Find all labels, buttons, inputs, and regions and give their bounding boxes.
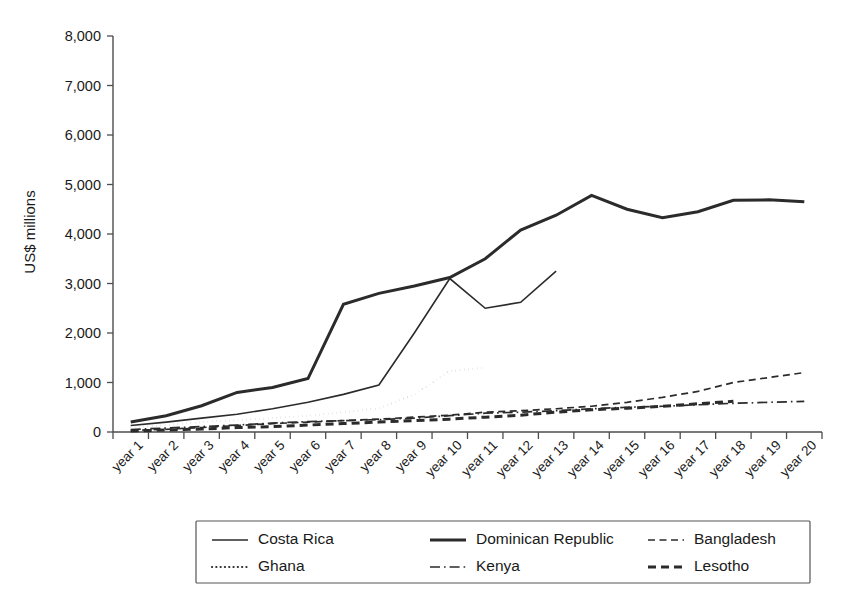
x-tick-label: year 14 — [564, 437, 607, 480]
x-tick-label: year 20 — [777, 438, 819, 480]
y-tick-label: 7,000 — [65, 78, 101, 94]
x-tick-label: year 18 — [706, 438, 748, 480]
x-tick-label: year 15 — [600, 438, 642, 480]
y-axis-title-text: US$ millions — [21, 190, 38, 273]
chart-figure: US$ millions 01,0002,0003,0004,0005,0006… — [0, 0, 853, 607]
caption-ghost-line — [6, 598, 846, 607]
x-tick-label: year 17 — [671, 438, 713, 480]
y-tick-label: 6,000 — [65, 127, 101, 143]
chart-series-group — [131, 195, 805, 431]
series-line-dominican-republic — [131, 195, 805, 422]
legend-label-bangladesh: Bangladesh — [694, 530, 776, 547]
line-chart: US$ millions 01,0002,0003,0004,0005,0006… — [0, 0, 853, 607]
x-tick-label: year 6 — [286, 438, 323, 475]
x-tick-label: year 19 — [741, 438, 783, 480]
x-tick-label: year 3 — [180, 438, 217, 475]
legend-label-kenya: Kenya — [476, 557, 520, 574]
x-tick-label: year 10 — [422, 438, 464, 480]
legend-entries: Costa RicaDominican RepublicBangladeshGh… — [212, 530, 776, 574]
y-tick-label: 2,000 — [65, 325, 101, 341]
y-tick-label: 3,000 — [65, 276, 101, 292]
x-tick-label: year 2 — [144, 438, 181, 475]
series-line-bangladesh — [131, 373, 805, 431]
y-tick-label: 8,000 — [65, 28, 101, 44]
x-tick-label: year 5 — [251, 438, 288, 475]
y-tick-label: 0 — [93, 424, 101, 440]
chart-legend: Costa RicaDominican RepublicBangladeshGh… — [196, 521, 810, 583]
x-tick-label: year 12 — [493, 438, 535, 480]
x-axis-ticks: year 1year 2year 3year 4year 5year 6year… — [109, 432, 822, 480]
legend-label-lesotho: Lesotho — [694, 557, 749, 574]
x-tick-label: year 4 — [215, 437, 252, 474]
x-tick-label: year 7 — [321, 438, 358, 475]
y-tick-label: 5,000 — [65, 177, 101, 193]
x-tick-label: year 13 — [529, 438, 571, 480]
series-line-costa-rica — [131, 271, 556, 425]
legend-label-dominican-republic: Dominican Republic — [476, 530, 614, 547]
y-axis-title: US$ millions — [21, 190, 38, 273]
x-tick-label: year 16 — [635, 438, 677, 480]
legend-label-ghana: Ghana — [258, 557, 305, 574]
x-tick-label: year 11 — [459, 438, 501, 480]
x-tick-label: year 8 — [357, 438, 394, 475]
y-tick-label: 1,000 — [65, 375, 101, 391]
legend-label-costa-rica: Costa Rica — [258, 530, 334, 547]
y-axis-ticks: 01,0002,0003,0004,0005,0006,0007,0008,00… — [65, 28, 113, 440]
x-tick-label: year 1 — [109, 438, 146, 475]
y-tick-label: 4,000 — [65, 226, 101, 242]
